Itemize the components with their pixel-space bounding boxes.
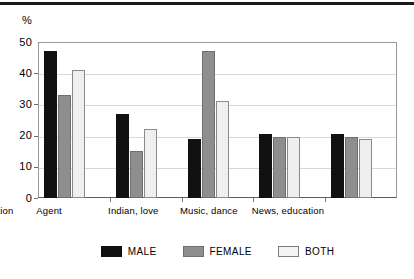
y-tick-label-40: 40 — [10, 68, 32, 79]
x-tick-mark-3 — [253, 198, 254, 202]
bars-layer — [38, 42, 397, 198]
bar-male-group-1 — [44, 51, 57, 198]
bar-female-group-4 — [273, 137, 286, 198]
white-square-swatch — [278, 246, 299, 257]
legend-label-female: FEMALE — [210, 246, 252, 257]
legend-item-both: BOTH — [278, 246, 334, 257]
y-axis-unit-label: % — [22, 14, 32, 26]
bar-male-group-2 — [116, 114, 129, 198]
bar-female-group-3 — [202, 51, 215, 198]
x-category-label-2: Agent — [36, 205, 62, 216]
x-category-label-3: Indian, love — [108, 205, 158, 216]
bar-female-group-2 — [130, 151, 143, 198]
top-divider-rule — [0, 2, 414, 5]
bar-both-group-5 — [359, 139, 372, 198]
legend-item-male: MALE — [101, 246, 157, 257]
x-tick-mark-2 — [182, 198, 183, 202]
y-tick-label-0: 0 — [10, 193, 32, 204]
y-tick-label-30: 30 — [10, 99, 32, 110]
legend-item-female: FEMALE — [183, 246, 252, 257]
black-square-swatch — [101, 246, 122, 257]
y-tick-label-20: 20 — [10, 130, 32, 141]
legend-label-both: BOTH — [305, 246, 334, 257]
gray-square-swatch — [183, 246, 204, 257]
bar-male-group-5 — [331, 134, 344, 198]
bar-both-group-3 — [216, 101, 229, 198]
bar-female-group-5 — [345, 137, 358, 198]
x-category-label-4: Music, dance — [180, 205, 238, 216]
x-tick-mark-4 — [325, 198, 326, 202]
bar-both-group-4 — [287, 137, 300, 198]
bar-female-group-1 — [58, 95, 71, 198]
x-tick-mark-1 — [110, 198, 111, 202]
bar-both-group-2 — [144, 129, 157, 198]
bar-male-group-3 — [188, 139, 201, 198]
y-tick-label-50: 50 — [10, 37, 32, 48]
y-tick-mark-0 — [34, 198, 38, 199]
bar-male-group-4 — [259, 134, 272, 198]
y-tick-label-10: 10 — [10, 161, 32, 172]
legend-label-male: MALE — [128, 246, 157, 257]
chart-legend: MALEFEMALEBOTH — [38, 243, 397, 259]
x-category-label-1: War, action — [0, 205, 13, 216]
bar-both-group-1 — [72, 70, 85, 198]
x-category-label-5: News, education — [252, 205, 324, 216]
